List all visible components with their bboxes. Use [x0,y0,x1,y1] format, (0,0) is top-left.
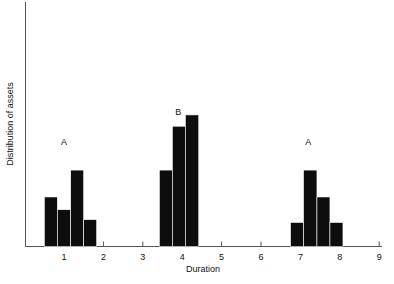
x-tick-label: 2 [101,252,106,262]
x-tick-label: 4 [180,252,185,262]
y-axis-title: Distribution of assets [5,82,15,166]
group-label-a: A [305,137,311,147]
x-tick-label: 7 [298,252,303,262]
x-tick-label: 3 [140,252,145,262]
group-label-a: A [61,137,67,147]
histogram-bar [291,222,304,246]
x-axis-title: Duration [186,264,220,274]
x-tick-label: 5 [219,252,224,262]
histogram-bar [185,115,198,247]
x-tick-label: 8 [337,252,342,262]
x-tick-label: 9 [377,252,382,262]
group-label-b: B [175,107,181,117]
chart-canvas: 123456789 ABA Duration Distribution of a… [0,0,394,284]
histogram-bar [71,170,84,246]
x-tick-label: 1 [61,252,66,262]
histogram-bar [304,170,317,246]
x-tick-label: 6 [258,252,263,262]
histogram-bar [57,210,70,247]
histogram-bar [159,170,172,246]
histogram-bar [330,222,343,246]
histogram-bar [84,220,97,247]
histogram-figure: 123456789 ABA Duration Distribution of a… [0,0,394,284]
histogram-bar [44,197,57,247]
histogram-bar [317,197,330,247]
histogram-bar [172,126,185,246]
